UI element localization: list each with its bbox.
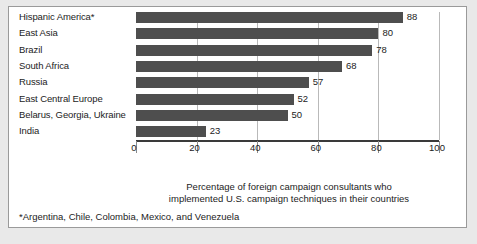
bar-value-label: 52 — [298, 93, 309, 105]
bar-row: 50 — [136, 110, 439, 121]
bar-value-label: 80 — [382, 27, 393, 39]
bar-row: 23 — [136, 126, 439, 137]
bar-row: 52 — [136, 94, 439, 105]
footnote: *Argentina, Chile, Colombia, Mexico, and… — [19, 211, 239, 223]
bar-row: 80 — [136, 28, 439, 39]
category-label: South Africa — [19, 60, 137, 71]
x-tick-label: 40 — [235, 142, 275, 153]
bar — [136, 126, 206, 137]
axis-caption-line1: Percentage of foreign campaign consultan… — [129, 181, 449, 193]
category-label: Russia — [19, 76, 137, 87]
bar-value-label: 23 — [210, 125, 221, 137]
bar-row: 88 — [136, 12, 439, 23]
figure-panel: Hispanic America*88East Asia80Brazil78So… — [8, 6, 467, 228]
bar-chart: Hispanic America*88East Asia80Brazil78So… — [9, 7, 468, 229]
bar — [136, 61, 342, 72]
x-tick-label: 80 — [356, 142, 396, 153]
bar — [136, 12, 403, 23]
category-label: Belarus, Georgia, Ukraine — [19, 109, 137, 120]
bar — [136, 77, 309, 88]
bar-row: 68 — [136, 61, 439, 72]
x-tick-label: 0 — [114, 142, 154, 153]
bar — [136, 110, 288, 121]
bar — [136, 28, 378, 39]
bar-row: 57 — [136, 77, 439, 88]
category-label: Hispanic America* — [19, 11, 137, 22]
category-label: India — [19, 125, 137, 136]
gridline — [439, 12, 440, 140]
category-label: Brazil — [19, 44, 137, 55]
bar-value-label: 68 — [346, 60, 357, 72]
bar-value-label: 50 — [292, 109, 303, 121]
axis-caption-line2: implemented U.S. campaign techniques in … — [129, 193, 449, 205]
bar — [136, 94, 294, 105]
bar-value-label: 78 — [376, 44, 387, 56]
x-tick-label: 60 — [296, 142, 336, 153]
x-tick-label: 20 — [175, 142, 215, 153]
bar-row: 78 — [136, 45, 439, 56]
category-label: East Asia — [19, 27, 137, 38]
bar-value-label: 57 — [313, 76, 324, 88]
bar-value-label: 88 — [407, 11, 418, 23]
bar — [136, 45, 372, 56]
x-tick-label: 100 — [417, 142, 457, 153]
category-label: East Central Europe — [19, 93, 137, 104]
